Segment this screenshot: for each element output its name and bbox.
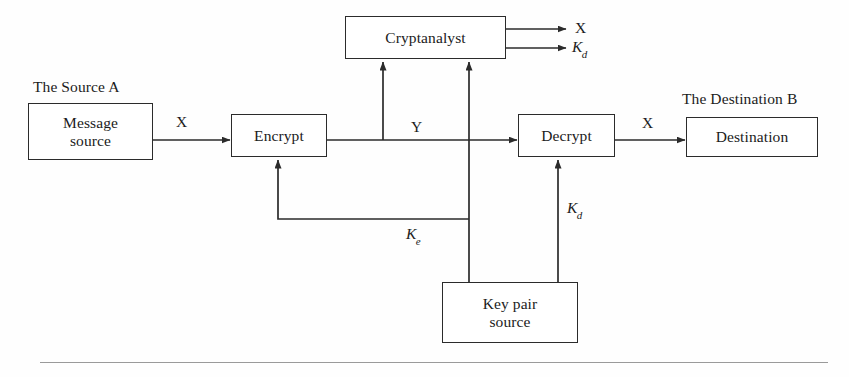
label-cryptanalyst-output-kd: Kd xyxy=(572,38,588,58)
diagram-page: Message source Encrypt Cryptanalyst Decr… xyxy=(0,0,849,377)
node-encrypt[interactable]: Encrypt xyxy=(231,114,327,157)
label-ciphertext-y: Y xyxy=(411,118,422,136)
node-cryptanalyst-label: Cryptanalyst xyxy=(385,29,465,46)
label-encryption-key-ke-subscript: e xyxy=(416,235,421,247)
node-decrypt[interactable]: Decrypt xyxy=(518,114,615,157)
node-cryptanalyst[interactable]: Cryptanalyst xyxy=(345,16,506,59)
node-key-pair-source[interactable]: Key pair source xyxy=(442,282,578,343)
caption-destination-b: The Destination B xyxy=(682,90,797,108)
label-encryption-key-ke: Ke xyxy=(406,225,421,245)
node-encrypt-label: Encrypt xyxy=(254,127,304,144)
page-bottom-rule xyxy=(40,362,828,363)
label-decryption-key-kd: Kd xyxy=(567,199,583,219)
edge-keypair-to-encrypt xyxy=(278,160,469,219)
label-encryption-key-ke-symbol: K xyxy=(406,225,416,242)
node-message-source-line2: source xyxy=(70,132,111,149)
label-decryption-key-kd-subscript: d xyxy=(577,209,583,221)
node-destination[interactable]: Destination xyxy=(686,117,818,157)
label-cryptanalyst-output-x-symbol: X xyxy=(575,19,586,36)
node-message-source-line1: Message xyxy=(63,114,118,131)
node-message-source[interactable]: Message source xyxy=(28,103,153,160)
node-key-pair-source-line1: Key pair xyxy=(483,295,538,312)
label-plaintext-x-out: X xyxy=(642,114,653,132)
label-cryptanalyst-output-x: X xyxy=(575,19,586,37)
label-plaintext-x-in: X xyxy=(176,113,187,131)
node-decrypt-label: Decrypt xyxy=(541,127,592,144)
label-cryptanalyst-output-kd-subscript: d xyxy=(582,48,588,60)
node-key-pair-source-line2: source xyxy=(489,313,530,330)
caption-source-a: The Source A xyxy=(33,78,119,96)
label-ciphertext-y-symbol: Y xyxy=(411,118,422,135)
node-destination-label: Destination xyxy=(716,128,789,145)
label-decryption-key-kd-symbol: K xyxy=(567,199,577,216)
label-plaintext-x-in-symbol: X xyxy=(176,113,187,130)
label-plaintext-x-out-symbol: X xyxy=(642,114,653,131)
label-cryptanalyst-output-kd-symbol: K xyxy=(572,38,582,55)
